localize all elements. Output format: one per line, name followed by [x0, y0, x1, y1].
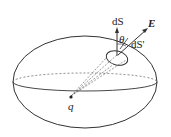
label-theta: θ: [119, 33, 125, 45]
label-dS: dS: [112, 15, 124, 27]
equator-back: [13, 73, 157, 82]
gauss-law-diagram: dS dS' E θ q: [0, 0, 171, 137]
label-dS-prime: dS': [131, 38, 145, 50]
label-E: E: [147, 17, 155, 29]
label-q: q: [68, 100, 74, 112]
charge-q: [69, 95, 72, 98]
